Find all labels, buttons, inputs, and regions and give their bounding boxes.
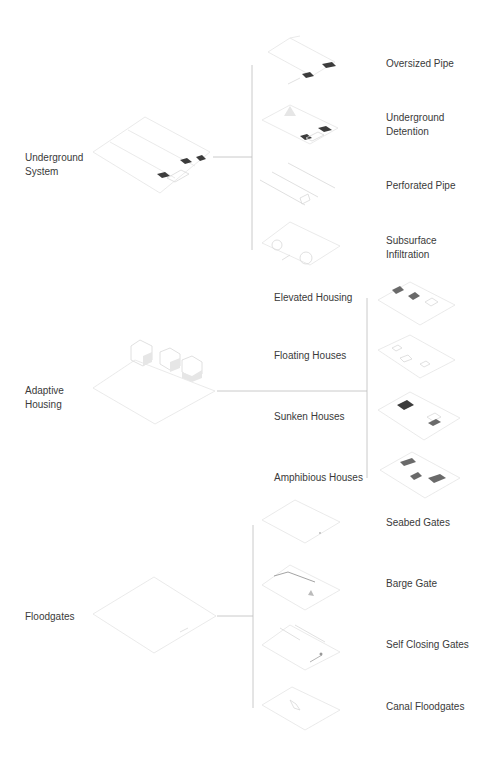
underground-system-drawing [93, 117, 210, 193]
item-label-sunken-houses: Sunken Houses [274, 410, 345, 424]
elevated-housing-drawing [378, 282, 455, 325]
floating-houses-drawing [378, 335, 455, 378]
adaptive-housing-drawing [93, 340, 215, 424]
canal-floodgates-drawing [262, 687, 340, 730]
seabed-gates-drawing [262, 500, 340, 543]
item-label-amphibious-houses: Amphibious Houses [274, 471, 363, 485]
label-line: Adaptive [25, 384, 64, 398]
group-label-underground-system: Underground System [25, 151, 83, 179]
item-label-seabed-gates: Seabed Gates [386, 516, 450, 530]
floodgates-drawing [93, 577, 216, 653]
group-label-adaptive-housing: Adaptive Housing [25, 384, 64, 412]
label-line: Underground [386, 111, 444, 125]
self-closing-gates-drawing [262, 625, 340, 670]
label-line: Floating Houses [274, 349, 346, 363]
item-label-subsurface-infiltration: Subsurface Infiltration [386, 234, 437, 262]
label-line: Seabed Gates [386, 516, 450, 530]
perforated-pipe-drawing [260, 163, 335, 205]
item-label-underground-detention: Underground Detention [386, 111, 444, 139]
sunken-houses-drawing [378, 392, 460, 440]
label-line: Amphibious Houses [274, 471, 363, 485]
item-label-floating-houses: Floating Houses [274, 349, 346, 363]
label-line: Elevated Housing [274, 291, 352, 305]
label-line: System [25, 165, 83, 179]
label-line: Infiltration [386, 248, 437, 262]
group-label-floodgates: Floodgates [25, 610, 74, 624]
item-label-barge-gate: Barge Gate [386, 577, 437, 591]
label-line: Housing [25, 398, 64, 412]
item-label-oversized-pipe: Oversized Pipe [386, 57, 454, 71]
label-line: Oversized Pipe [386, 57, 454, 71]
label-line: Barge Gate [386, 577, 437, 591]
label-line: Sunken Houses [274, 410, 345, 424]
label-line: Floodgates [25, 610, 74, 624]
barge-gate-drawing [262, 565, 340, 610]
subsurface-infiltration-drawing [262, 222, 340, 265]
label-line: Self Closing Gates [386, 638, 469, 652]
underground-detention-drawing [262, 105, 338, 144]
amphibious-houses-drawing [380, 452, 460, 498]
item-label-perforated-pipe: Perforated Pipe [386, 179, 456, 193]
item-label-self-closing-gates: Self Closing Gates [386, 638, 469, 652]
item-label-elevated-housing: Elevated Housing [274, 291, 352, 305]
label-line: Perforated Pipe [386, 179, 456, 193]
oversized-pipe-drawing [268, 36, 336, 84]
item-label-canal-floodgates: Canal Floodgates [386, 700, 464, 714]
label-line: Canal Floodgates [386, 700, 464, 714]
label-line: Underground [25, 151, 83, 165]
label-line: Subsurface [386, 234, 437, 248]
label-line: Detention [386, 125, 444, 139]
